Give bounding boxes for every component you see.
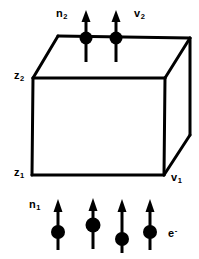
edge-front-left — [32, 78, 33, 175]
label-n2-base: n — [56, 7, 63, 19]
label-n2-sub: 2 — [63, 12, 67, 21]
spin-arrow-head — [112, 10, 121, 22]
spin-dot — [110, 32, 123, 45]
spin-arrow-bottom-2 — [86, 198, 101, 249]
label-electron-base: e — [168, 227, 174, 239]
diagram-canvas — [0, 0, 199, 259]
label-v2-sub: 2 — [141, 12, 145, 21]
spin-arrow-bottom-3 — [115, 199, 129, 253]
label-v1: v1 — [171, 172, 181, 183]
label-v1-sub: 1 — [178, 176, 182, 185]
label-electron: e- — [168, 228, 177, 239]
label-v1-base: v — [171, 171, 177, 183]
spin-arrow-bottom-1 — [51, 199, 65, 250]
spin-dot — [51, 225, 65, 239]
label-z1-base: z — [14, 166, 20, 178]
edge-front-right — [164, 78, 165, 175]
spin-arrow-head — [82, 10, 91, 22]
label-z2-sub: 2 — [20, 74, 24, 83]
slab-faces — [32, 36, 190, 175]
spin-arrow-head — [54, 199, 63, 212]
label-n1-base: n — [29, 198, 36, 210]
label-n1-sub: 1 — [36, 203, 40, 212]
edge-top-back — [58, 36, 190, 38]
label-electron-sup: - — [175, 226, 178, 235]
label-z2-base: z — [14, 69, 20, 81]
spin-dot — [86, 218, 101, 233]
label-n2: n2 — [56, 8, 67, 19]
spin-arrow-head — [89, 198, 98, 211]
bottom-spin-group — [51, 198, 157, 253]
label-v2: v2 — [134, 8, 144, 19]
spin-transport-diagram: n2 v2 z2 z1 v1 n1 e- — [0, 0, 199, 259]
spin-dot — [80, 32, 93, 45]
spin-arrow-head — [118, 199, 127, 212]
label-z1: z1 — [14, 167, 24, 178]
label-z1-sub: 1 — [20, 171, 24, 180]
label-n1: n1 — [29, 199, 40, 210]
slab-front-face — [32, 78, 165, 175]
spin-dot — [143, 225, 157, 239]
spin-dot — [115, 232, 129, 246]
spin-arrow-bottom-4 — [143, 199, 157, 250]
label-v2-base: v — [134, 7, 140, 19]
spin-arrow-head — [146, 199, 155, 212]
label-z2: z2 — [14, 70, 24, 81]
